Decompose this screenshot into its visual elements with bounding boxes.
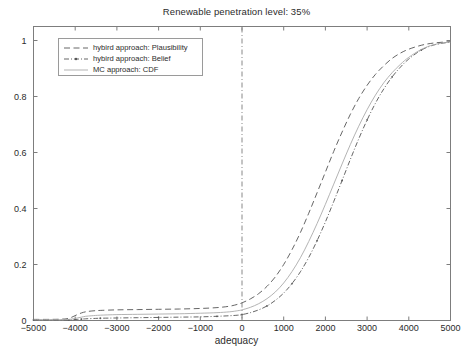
x-tick-label: 5000 bbox=[440, 323, 460, 333]
x-tick-label: 4000 bbox=[399, 323, 419, 333]
x-tick-label: −2000 bbox=[146, 323, 171, 333]
y-tick-label: 0.4 bbox=[0, 204, 27, 214]
x-axis-label: adequacy bbox=[0, 335, 473, 346]
figure-canvas: Renewable penetration level: 35% adequac… bbox=[0, 0, 473, 356]
x-tick-label: 0 bbox=[239, 323, 244, 333]
legend-item-label: MC approach: CDF bbox=[93, 64, 158, 76]
x-tick-label: 3000 bbox=[357, 323, 377, 333]
x-tick-label: −3000 bbox=[104, 323, 129, 333]
legend: hybird approach: Plausibilityhybird appr… bbox=[58, 38, 203, 76]
x-tick-label: 1000 bbox=[274, 323, 294, 333]
y-tick-label: 1 bbox=[0, 36, 27, 46]
x-tick-label: 2000 bbox=[315, 323, 335, 333]
y-tick-label: 0.8 bbox=[0, 92, 27, 102]
y-tick-label: 0.6 bbox=[0, 148, 27, 158]
legend-line-sample bbox=[63, 64, 89, 76]
x-tick-label: −1000 bbox=[188, 323, 213, 333]
y-tick-label: 0.2 bbox=[0, 260, 27, 270]
legend-item-2: MC approach: CDF bbox=[59, 64, 202, 76]
x-tick-label: −4000 bbox=[63, 323, 88, 333]
y-tick-label: 0 bbox=[0, 316, 27, 326]
